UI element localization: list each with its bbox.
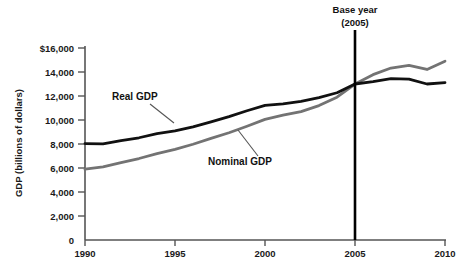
x-tick-label-1995: 1995 xyxy=(164,248,186,259)
x-axis-ticks xyxy=(85,240,445,246)
y-tick-label-10000: 10,000 xyxy=(45,115,74,126)
gdp-chart: $16,000 14,000 12,000 10,000 8,000 6,000… xyxy=(0,0,474,262)
x-axis-tick-labels: 1990 1995 2000 2005 2010 xyxy=(74,248,455,259)
y-tick-label-0: 0 xyxy=(69,235,74,246)
base-year-label-line2: (2005) xyxy=(341,17,368,28)
x-tick-label-2010: 2010 xyxy=(434,248,455,259)
real-gdp-line xyxy=(85,79,445,144)
y-tick-label-14000: 14,000 xyxy=(45,67,74,78)
nominal-gdp-label: Nominal GDP xyxy=(208,156,272,167)
chart-canvas: $16,000 14,000 12,000 10,000 8,000 6,000… xyxy=(0,0,474,262)
y-tick-label-4000: 4,000 xyxy=(50,187,74,198)
y-axis-title: GDP (billions of dollars) xyxy=(13,89,24,197)
y-tick-label-6000: 6,000 xyxy=(50,163,74,174)
nominal-gdp-leader-line xyxy=(238,130,258,156)
y-tick-label-12000: 12,000 xyxy=(45,91,74,102)
base-year-label-line1: Base year xyxy=(333,4,378,15)
y-tick-label-8000: 8,000 xyxy=(50,139,74,150)
y-axis-tick-labels: $16,000 14,000 12,000 10,000 8,000 6,000… xyxy=(40,43,74,246)
x-tick-label-2005: 2005 xyxy=(344,248,366,259)
real-gdp-leader-line xyxy=(150,104,174,123)
x-tick-label-2000: 2000 xyxy=(254,248,275,259)
real-gdp-label: Real GDP xyxy=(112,91,158,102)
y-axis-ticks xyxy=(78,48,85,216)
y-tick-label-16000: $16,000 xyxy=(40,43,74,54)
x-tick-label-1990: 1990 xyxy=(74,248,95,259)
y-tick-label-2000: 2,000 xyxy=(50,211,74,222)
